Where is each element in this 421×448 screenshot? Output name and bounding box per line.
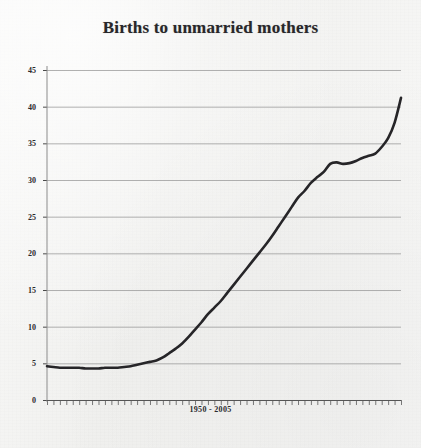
line-chart-svg <box>0 0 421 448</box>
y-axis-tick-label: 45 <box>10 66 36 75</box>
y-axis-tick-label: 15 <box>10 286 36 295</box>
y-axis-tick-label: 30 <box>10 176 36 185</box>
chart-plot-area: 454035302520151050 1950 - 2005 <box>0 0 421 448</box>
data-series-line <box>47 98 401 369</box>
y-axis-tick-label: 25 <box>10 212 36 221</box>
y-axis-tick-label: 0 <box>10 396 36 405</box>
y-axis-tick-label: 5 <box>10 359 36 368</box>
y-axis-tick-label: 20 <box>10 249 36 258</box>
y-axis-tick-label: 35 <box>10 139 36 148</box>
y-axis-tick-label: 10 <box>10 322 36 331</box>
y-axis-tick-label: 40 <box>10 102 36 111</box>
x-axis-label: 1950 - 2005 <box>0 405 421 414</box>
gridlines-group <box>43 71 401 401</box>
